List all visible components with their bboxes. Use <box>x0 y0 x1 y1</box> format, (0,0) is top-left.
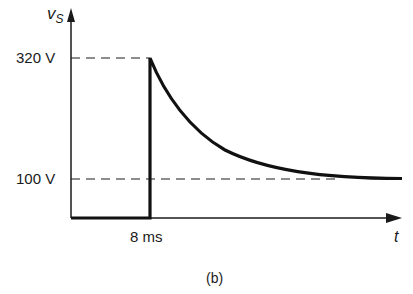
ytick-100v: 100 V <box>16 170 55 187</box>
chart-canvas <box>0 0 413 294</box>
x-axis-label: t <box>394 228 398 246</box>
y-axis-label: vS <box>47 4 64 26</box>
xtick-8ms: 8 ms <box>130 228 163 245</box>
y-axis-symbol: v <box>47 4 56 23</box>
ytick-320v: 320 V <box>16 49 55 66</box>
y-axis-arrow-icon <box>67 8 75 22</box>
x-axis-arrow-icon <box>386 213 402 223</box>
y-axis-subscript: S <box>56 12 64 26</box>
figure-caption: (b) <box>206 270 223 286</box>
signal-curve <box>71 58 402 218</box>
